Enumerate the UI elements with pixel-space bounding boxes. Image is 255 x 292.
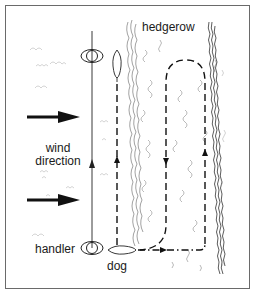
handler-label: handler (35, 243, 75, 255)
hedgerow-right-edge (208, 22, 225, 274)
hedgerow-left-edge (127, 20, 143, 246)
hedgerow-label: hedgerow (142, 21, 195, 33)
wind-label-line2: direction (28, 155, 88, 167)
dog-path-arrowheads (114, 149, 208, 253)
wind-arrow-lower (27, 194, 80, 206)
handler-path-arrowhead (89, 159, 95, 168)
dog-label: dog (107, 260, 127, 272)
handler-path (89, 31, 95, 248)
dog-path (117, 60, 205, 250)
wind-arrow-upper (27, 111, 80, 123)
dog-end-icon (113, 50, 121, 82)
dog-start-icon (108, 246, 136, 254)
wind-label-line1: wind (28, 142, 88, 154)
hedgerow-outer-texture (221, 70, 226, 266)
